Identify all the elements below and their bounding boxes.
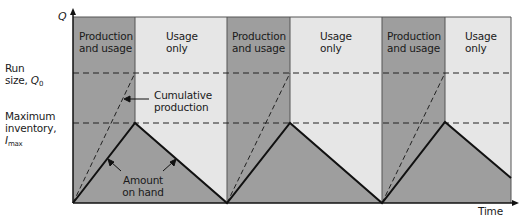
y-axis-arrow-icon bbox=[70, 8, 76, 15]
run-size-label-line1: Run bbox=[5, 62, 43, 74]
y-axis-label: Q bbox=[58, 10, 67, 23]
band-label-usage-2: Usageonly bbox=[320, 30, 352, 54]
cumulative-production-annotation: Cumulative production bbox=[154, 89, 212, 113]
x-axis-label: Time bbox=[478, 205, 503, 217]
max-inventory-label-line2: inventory, bbox=[5, 122, 56, 134]
band-label-usage-3: Usageonly bbox=[465, 30, 497, 54]
band-label-production-1: Productionand usage bbox=[79, 30, 133, 54]
amount-on-hand-annotation: Amount on hand bbox=[120, 174, 166, 198]
band-label-production-2: Productionand usage bbox=[232, 30, 286, 54]
band-label-production-3: Productionand usage bbox=[387, 30, 441, 54]
band-label-usage-1: Usageonly bbox=[166, 30, 198, 54]
max-inventory-symbol: Imax bbox=[5, 134, 56, 150]
x-axis-arrow-icon bbox=[512, 200, 519, 206]
run-size-label-line2: size, Q0 bbox=[5, 74, 43, 90]
run-size-label: Run size, Q0 bbox=[5, 62, 43, 90]
max-inventory-label: Maximum inventory, Imax bbox=[5, 110, 56, 150]
max-inventory-label-line1: Maximum bbox=[5, 110, 56, 122]
